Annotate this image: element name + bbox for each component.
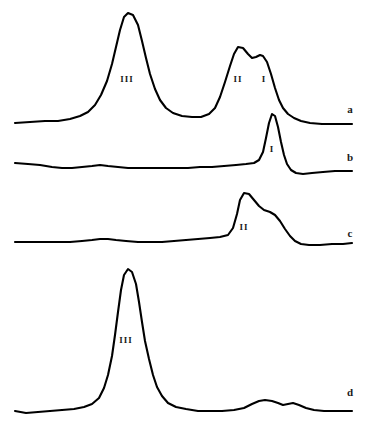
trace-label-c: c — [348, 227, 353, 239]
peak-label-c-II: II — [239, 222, 248, 232]
trace-label-d: d — [347, 386, 353, 398]
peak-label-d-III: III — [119, 335, 133, 345]
trace-label-b: b — [347, 151, 353, 163]
trace-label-a: a — [347, 103, 353, 115]
trace-curve-c — [15, 193, 352, 245]
peak-label-a-III: III — [120, 74, 134, 84]
trace-curve-a — [15, 13, 352, 124]
traces-group — [15, 13, 352, 413]
peak-label-b-I: I — [270, 144, 275, 154]
traces-svg: IIIIIIIIIIII abcd — [0, 0, 368, 428]
trace-labels-group: abcd — [347, 103, 353, 398]
peak-label-a-II: II — [233, 74, 242, 84]
peak-labels-group: IIIIIIIIIIII — [119, 74, 274, 345]
peak-label-a-I: I — [262, 74, 267, 84]
trace-curve-d — [15, 269, 352, 413]
trace-curve-b — [15, 114, 352, 174]
